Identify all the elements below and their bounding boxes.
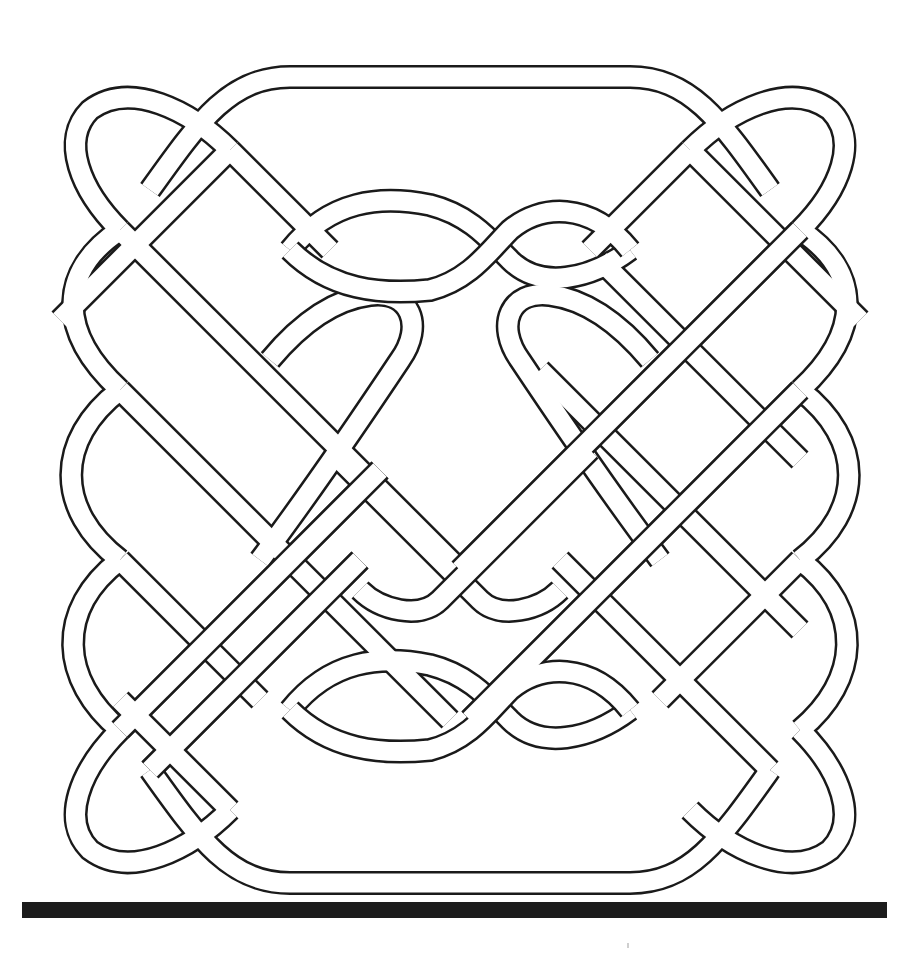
- celtic-knot-drawing: [0, 0, 919, 957]
- speck-mark: [627, 943, 629, 948]
- horizontal-rule: [22, 902, 887, 918]
- knot-ribbons: [60, 77, 860, 883]
